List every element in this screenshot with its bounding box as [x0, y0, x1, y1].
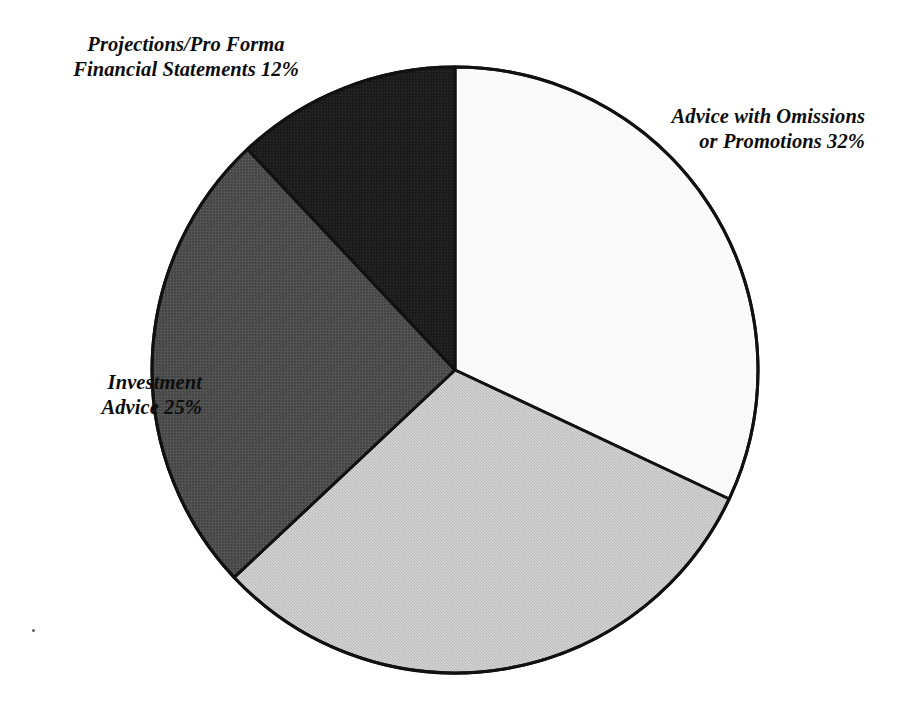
slice-label-advice-omissions: Advice with Omissions or Promotions 32%	[603, 104, 865, 154]
pie-slice-group	[152, 67, 758, 673]
slice-label-projections: Projections/Pro Forma Financial Statemen…	[40, 32, 332, 82]
slice-label-investment-advice: Investment Advice 25%	[10, 370, 202, 420]
scan-artifact-speck	[32, 629, 35, 632]
pie-chart-figure: Projections/Pro Forma Financial Statemen…	[0, 0, 899, 711]
